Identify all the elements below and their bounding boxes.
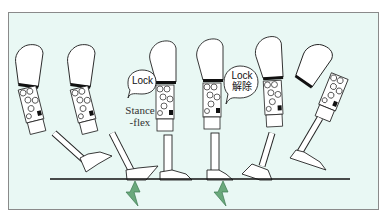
flex-label: -flex — [122, 116, 158, 128]
arrow-ground-reaction-1 — [126, 181, 140, 206]
leg-2 — [57, 42, 110, 137]
arrow-ground-reaction-2 — [214, 181, 228, 206]
bubble-lock-release-text: Lock 解除 — [226, 70, 258, 92]
leg-5 — [255, 36, 286, 127]
lock-release-label-2: 解除 — [226, 81, 258, 92]
stance-label: Stance — [122, 104, 158, 116]
lock-label: Lock — [132, 75, 153, 86]
gait-illustration — [0, 0, 387, 217]
bubble-lock-text: Lock — [129, 75, 156, 86]
leg-1 — [5, 42, 58, 137]
leg-4 — [197, 39, 223, 129]
lock-release-label-1: Lock — [226, 70, 258, 81]
stance-flex-annotation: Stance -flex — [122, 104, 158, 128]
